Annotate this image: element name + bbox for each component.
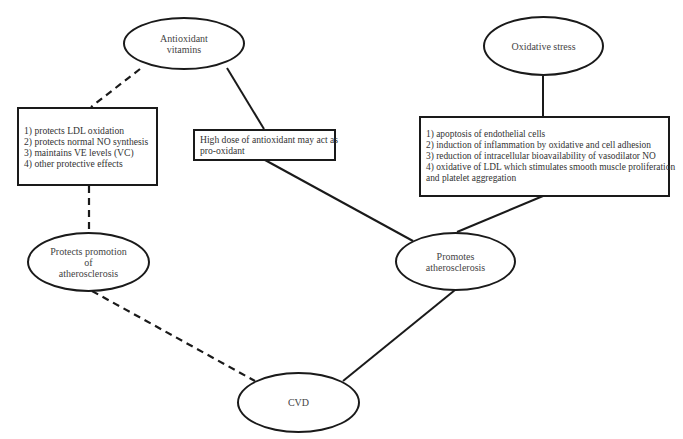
list-item: and platelet aggregation: [426, 173, 663, 184]
edge-antioxidant-to-protective-box: [91, 69, 140, 107]
node-label-line: Antioxidant: [160, 33, 208, 44]
node-label-line: pro-oxidant: [200, 145, 329, 156]
edge-high-dose-box-to-promotes: [265, 160, 413, 241]
node-high-dose-box: High dose of antioxidant may act as pro-…: [193, 129, 336, 161]
list-item: 4) oxidative of LDL which stimulates smo…: [426, 162, 663, 173]
node-oxidative-stress: Oxidative stress: [483, 16, 604, 76]
node-label-line: CVD: [288, 397, 309, 408]
list-item: 3) maintains VE levels (VC): [24, 147, 151, 158]
list-item: 2) induction of inflammation by oxidativ…: [426, 140, 663, 151]
edge-effects-box-to-promotes: [457, 196, 543, 232]
edge-promotes-to-cvd: [343, 290, 455, 381]
edge-antioxidant-to-high-dose-box: [227, 68, 264, 129]
list-item: 1) apoptosis of endothelial cells: [426, 129, 663, 140]
node-protects-promotion: Protects promotion of atherosclerosis: [27, 232, 150, 292]
node-label-line: Oxidative stress: [511, 41, 575, 52]
list-item: 4) other protective effects: [24, 158, 151, 169]
node-label-line: Promotes: [426, 251, 485, 262]
node-label-line: Protects promotion: [50, 246, 126, 257]
node-label-line: atherosclerosis: [426, 262, 485, 273]
node-protective-effects-box: 1) protects LDL oxidation 2) protects no…: [17, 107, 158, 186]
list-item: 2) protects normal NO synthesis: [24, 136, 151, 147]
list-item: 1) protects LDL oxidation: [24, 125, 151, 136]
node-label-line: High dose of antioxidant may act as: [200, 134, 329, 145]
node-oxidative-effects-box: 1) apoptosis of endothelial cells 2) ind…: [419, 116, 670, 197]
node-promotes-atherosclerosis: Promotes atherosclerosis: [395, 232, 516, 291]
node-label-line: atherosclerosis: [50, 268, 126, 279]
list-item: 3) reduction of intracellular bioavailab…: [426, 151, 663, 162]
node-label-line: vitamins: [160, 44, 208, 55]
node-antioxidant-vitamins: Antioxidant vitamins: [123, 17, 245, 70]
edge-protects-promotion-to-cvd: [92, 291, 255, 381]
node-cvd: CVD: [237, 372, 360, 433]
node-label-line: of: [50, 257, 126, 268]
